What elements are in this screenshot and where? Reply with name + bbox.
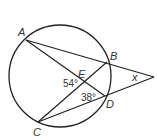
circle	[9, 25, 111, 127]
label-A: A	[17, 26, 25, 38]
label-C: C	[33, 126, 41, 138]
label-D: D	[106, 98, 114, 110]
label-B: B	[110, 50, 117, 62]
angle-D-label: 38°	[81, 92, 96, 103]
angle-x-label: x	[131, 71, 138, 83]
label-E: E	[78, 68, 86, 80]
angle-E-label: 54°	[63, 78, 78, 89]
chord-CB	[38, 62, 107, 122]
geometry-diagram: A B C D E 54° 38° x	[0, 0, 157, 140]
